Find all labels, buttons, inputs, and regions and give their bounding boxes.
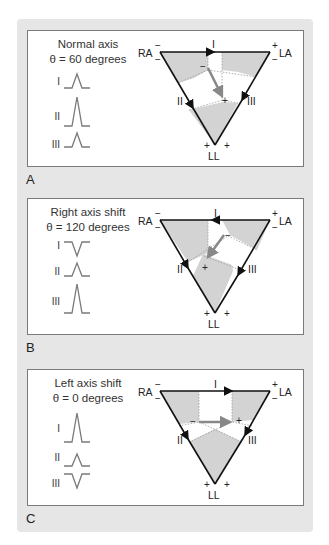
panel-c-ra-label: RA [138, 386, 153, 398]
panel-b-la-plus: + [272, 209, 278, 219]
panel-b-ra-minus-bottom: − [155, 223, 161, 233]
panel-a-side-ii-label: II [177, 95, 183, 107]
panel-b-axis-minus: − [225, 231, 231, 241]
panel-a-axis-minus: − [200, 62, 206, 72]
panel-c-ll-plus-right: + [224, 480, 230, 490]
panel-c-side-iii-label: III [248, 434, 257, 446]
panel-a-side-i-label: I [212, 38, 215, 50]
panel-b-ll-plus-right: + [224, 309, 230, 319]
panel-b-ra-minus-top: − [155, 209, 161, 219]
mean-axis-arrow [208, 68, 222, 96]
panel-a-la-label: LA [279, 47, 292, 59]
panel-a-ra-label: RA [138, 47, 153, 59]
panel-b-ll-plus-left: + [204, 309, 210, 319]
panel-c-ra-minus-top: − [155, 380, 161, 390]
panel-letter-a: A [26, 172, 35, 187]
panel-c-la-label: LA [279, 386, 292, 398]
panel-b-ra-label: RA [138, 215, 153, 227]
panel-a-ll-plus-right: + [224, 141, 230, 151]
panel-a-ll-plus-left: + [204, 141, 210, 151]
panel-a-la-minus: − [272, 55, 278, 65]
panel-b-side-i-label: I [214, 207, 217, 219]
panel-c-side-ii-label: II [177, 434, 183, 446]
panel-b-axis-plus: + [202, 263, 208, 273]
panel-a-axis-plus: + [222, 96, 228, 106]
panel-a-ll-label: LL [208, 150, 220, 162]
panel-b-la-minus: − [272, 223, 278, 233]
panel-a-la-plus: + [272, 41, 278, 51]
panel-c-axis-plus: + [236, 416, 242, 426]
mean-axis-arrow [208, 235, 224, 257]
panel-c-side-i-label: I [214, 378, 217, 390]
panel-c-la-minus: − [272, 394, 278, 404]
einthoven-triangles [0, 0, 329, 545]
panel-b-la-label: LA [279, 215, 292, 227]
panel-letter-b: B [26, 340, 35, 355]
panel-c-axis-minus: − [190, 417, 196, 427]
panel-c-la-plus: + [272, 380, 278, 390]
panel-b-side-ii-label: II [177, 263, 183, 275]
panel-a-side-iii-label: III [247, 95, 256, 107]
panel-b-ll-label: LL [208, 318, 220, 330]
panel-c-ra-minus-bottom: − [155, 394, 161, 404]
panel-a-ra-minus-bottom: − [155, 55, 161, 65]
panel-b-side-iii-label: III [248, 263, 257, 275]
panel-letter-c: C [26, 511, 35, 526]
panel-c-ll-label: LL [208, 489, 220, 501]
panel-c-ll-plus-left: + [204, 480, 210, 490]
panel-a-ra-minus-top: − [155, 41, 161, 51]
